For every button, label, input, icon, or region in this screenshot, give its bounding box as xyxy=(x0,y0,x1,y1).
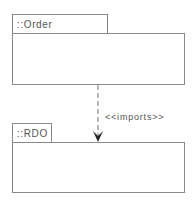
dependency-label: <<imports>> xyxy=(105,112,164,122)
arrowhead-icon xyxy=(93,131,103,142)
dependency-arrow[interactable] xyxy=(0,0,196,204)
